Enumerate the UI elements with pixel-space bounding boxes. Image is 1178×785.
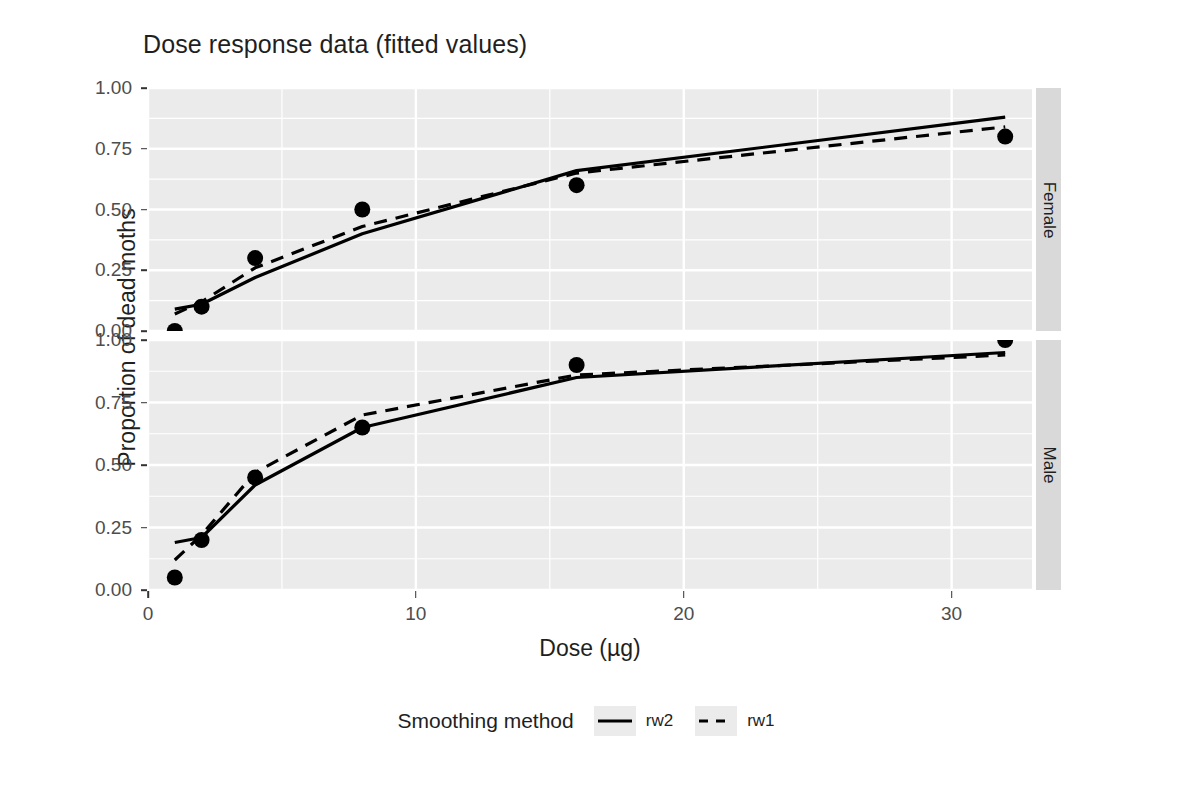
y-tick-label: 0.50 bbox=[62, 454, 132, 476]
data-point bbox=[194, 532, 210, 548]
data-point bbox=[354, 420, 370, 436]
y-tick-label: 0.75 bbox=[62, 138, 132, 160]
y-tick-label: 0.75 bbox=[62, 392, 132, 414]
data-point bbox=[247, 250, 263, 266]
x-tick-mark bbox=[951, 591, 953, 598]
x-tick-mark bbox=[683, 591, 685, 598]
data-point bbox=[569, 357, 585, 373]
page-title: Dose response data (fitted values) bbox=[143, 30, 527, 59]
legend-key-solid-icon bbox=[594, 706, 636, 736]
series-line-rw1 bbox=[175, 355, 1005, 560]
data-point bbox=[997, 129, 1013, 145]
series-line-rw1 bbox=[175, 127, 1005, 314]
y-tick-mark bbox=[141, 87, 147, 89]
y-tick-mark bbox=[141, 269, 147, 271]
legend-label-rw2: rw2 bbox=[646, 711, 673, 731]
facet-strip-label-male: Male bbox=[1039, 447, 1059, 484]
data-point bbox=[167, 570, 183, 586]
y-tick-mark bbox=[141, 330, 147, 332]
series-line-rw2 bbox=[175, 353, 1005, 543]
facet-strip-male: Male bbox=[1036, 340, 1061, 590]
x-tick-label: 0 bbox=[143, 603, 154, 625]
y-tick-label: 0.50 bbox=[62, 199, 132, 221]
facet-panel-male bbox=[148, 340, 1032, 590]
y-tick-mark bbox=[141, 339, 147, 341]
y-tick-label: 1.00 bbox=[62, 77, 132, 99]
legend-key-dashed-icon bbox=[695, 706, 737, 736]
y-tick-mark bbox=[141, 209, 147, 211]
facet-strip-female: Female bbox=[1036, 88, 1061, 331]
y-tick-label: 1.00 bbox=[62, 329, 132, 351]
y-tick-label: 0.25 bbox=[62, 517, 132, 539]
facet-panel-female bbox=[148, 88, 1032, 331]
data-point bbox=[354, 202, 370, 218]
y-tick-label: 0.25 bbox=[62, 259, 132, 281]
y-tick-label: 0.00 bbox=[62, 579, 132, 601]
y-tick-mark bbox=[141, 148, 147, 150]
data-point bbox=[167, 323, 183, 331]
x-tick-mark bbox=[147, 591, 149, 598]
y-tick-mark bbox=[141, 402, 147, 404]
x-tick-label: 30 bbox=[941, 603, 962, 625]
x-tick-label: 20 bbox=[673, 603, 694, 625]
legend-item-rw2[interactable]: rw2 bbox=[594, 706, 679, 736]
y-tick-mark bbox=[141, 464, 147, 466]
data-point bbox=[569, 177, 585, 193]
legend-item-rw1[interactable]: rw1 bbox=[695, 706, 780, 736]
y-tick-mark bbox=[141, 527, 147, 529]
x-tick-label: 10 bbox=[405, 603, 426, 625]
legend-label-rw1: rw1 bbox=[747, 711, 774, 731]
data-point bbox=[997, 340, 1013, 348]
facet-strip-label-female: Female bbox=[1039, 181, 1059, 238]
y-tick-mark bbox=[141, 589, 147, 591]
x-axis-label: Dose (µg) bbox=[148, 635, 1032, 662]
data-point bbox=[247, 470, 263, 486]
series-line-rw2 bbox=[175, 117, 1005, 309]
legend: Smoothing method rw2 rw1 bbox=[0, 706, 1178, 736]
data-point bbox=[194, 299, 210, 315]
legend-title: Smoothing method bbox=[397, 709, 573, 733]
x-tick-mark bbox=[415, 591, 417, 598]
